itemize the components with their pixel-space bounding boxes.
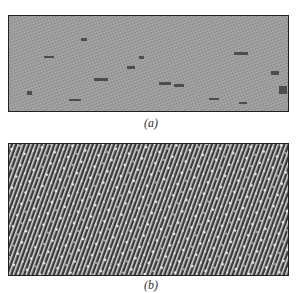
caption-a: (a) (0, 116, 302, 131)
micrograph-panel-b (8, 143, 289, 276)
lattice-texture-b (9, 144, 289, 276)
caption-b: (b) (0, 278, 302, 293)
lattice-texture-a (9, 16, 289, 112)
micrograph-panel-a (8, 15, 289, 112)
